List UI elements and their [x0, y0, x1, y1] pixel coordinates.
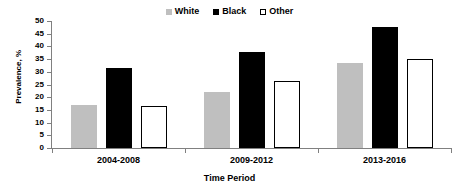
- legend-label-white: White: [175, 7, 200, 16]
- x-axis-tick: [52, 148, 53, 153]
- bar-black-2009-2012: [239, 52, 265, 148]
- x-axis-tick: [185, 148, 186, 153]
- bar-other-2009-2012: [274, 81, 300, 148]
- bar-black-2004-2008: [106, 68, 132, 148]
- y-axis-tick-label: 0: [24, 144, 44, 152]
- legend-label-black: Black: [222, 7, 246, 16]
- legend-entry-white: White: [166, 7, 200, 16]
- y-axis-tick-label: 50: [24, 17, 44, 25]
- x-axis-category-label: 2009-2012: [185, 155, 318, 165]
- plot-area: [52, 21, 451, 148]
- legend-label-other: Other: [269, 7, 293, 16]
- y-axis-tick-label: 5: [24, 131, 44, 139]
- x-axis-tick: [451, 148, 452, 153]
- legend-swatch-other-icon: [260, 9, 266, 15]
- legend-entry-other: Other: [260, 7, 293, 16]
- x-axis-tick: [318, 148, 319, 153]
- x-axis-category-label: 2004-2008: [52, 155, 185, 165]
- y-axis-tick-label: 25: [24, 81, 44, 89]
- y-axis-title: Prevalence, %: [14, 50, 24, 104]
- y-axis-tick-label: 30: [24, 68, 44, 76]
- x-axis-line: [51, 148, 451, 149]
- y-axis-tick-label: 40: [24, 42, 44, 50]
- bar-white-2013-2016: [337, 63, 363, 148]
- bar-other-2013-2016: [407, 59, 433, 148]
- legend-entry-black: Black: [213, 7, 246, 16]
- bar-black-2013-2016: [372, 27, 398, 148]
- x-axis-title: Time Period: [0, 173, 459, 183]
- y-axis-tick-label: 35: [24, 55, 44, 63]
- legend-swatch-white-icon: [166, 9, 172, 15]
- bar-white-2004-2008: [71, 105, 97, 148]
- bar-chart: White Black Other Prevalence, % 05101520…: [0, 0, 459, 191]
- bar-other-2004-2008: [141, 106, 167, 148]
- x-axis-category-label: 2013-2016: [318, 155, 451, 165]
- bar-white-2009-2012: [204, 92, 230, 148]
- y-axis-tick-label: 15: [24, 106, 44, 114]
- chart-legend: White Black Other: [0, 7, 459, 16]
- y-axis-tick-label: 20: [24, 93, 44, 101]
- y-axis-tick-label: 10: [24, 119, 44, 127]
- y-axis-tick-label: 45: [24, 30, 44, 38]
- legend-swatch-black-icon: [213, 9, 219, 15]
